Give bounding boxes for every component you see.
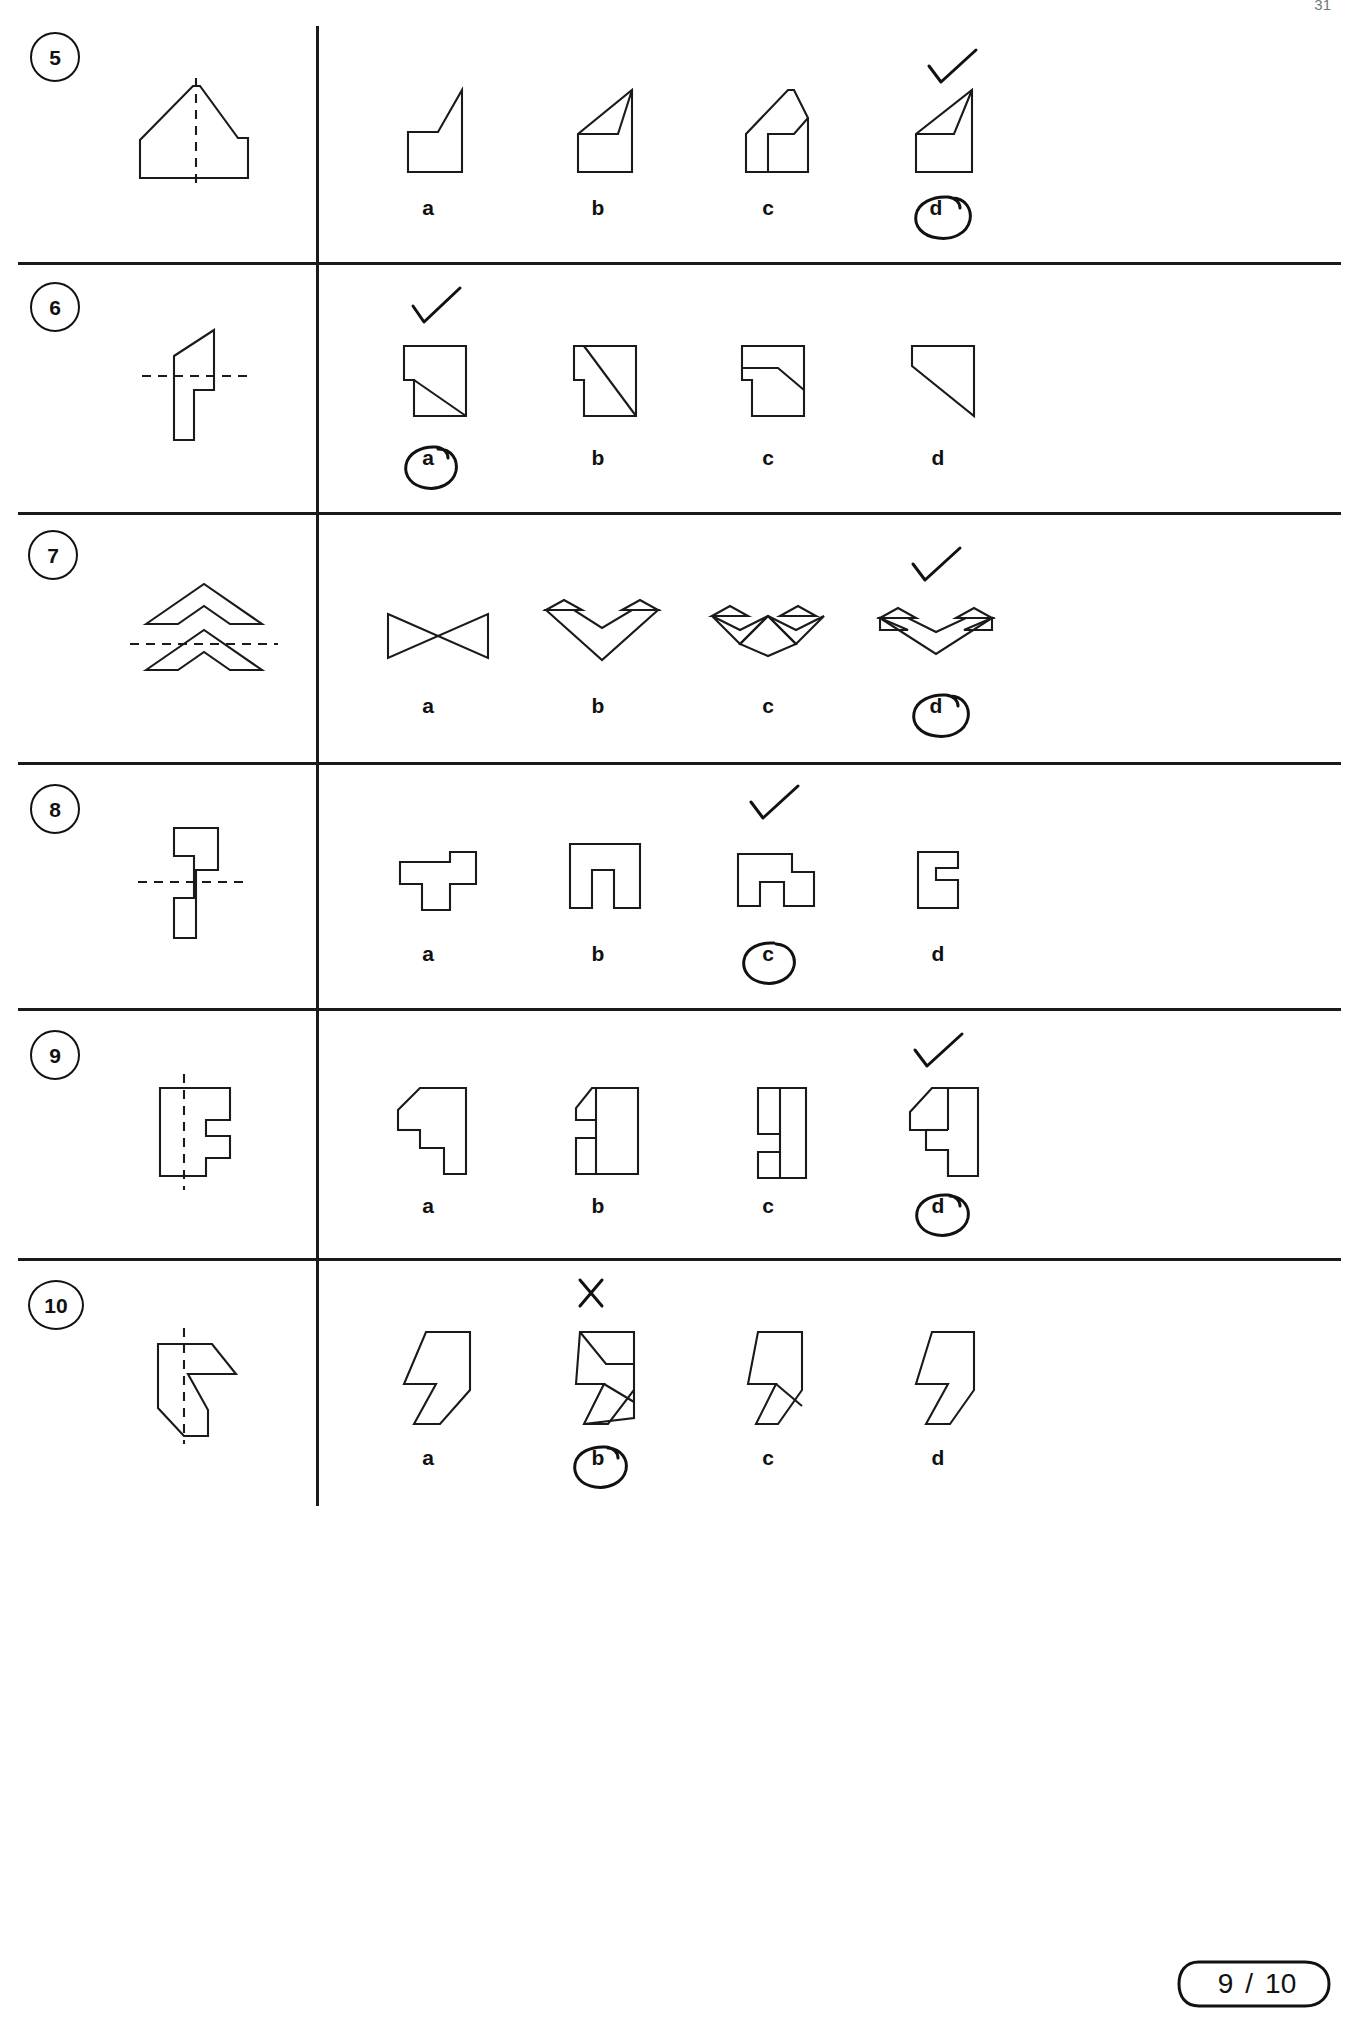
option-10-a[interactable] [392,1320,486,1432]
question-row-7: 7 a b [0,512,1359,762]
option-6-d[interactable] [904,338,990,430]
option-10-b[interactable] [562,1320,656,1432]
score-separator: / [1245,1968,1253,2000]
question-row-5: 5 a b [0,0,1359,262]
worksheet-page: 31 5 a [0,0,1359,2018]
question-number-6: 6 [30,282,80,332]
option-label-10-d[interactable]: d [908,1446,968,1470]
check-mark-6 [408,284,470,328]
option-7-c[interactable] [706,600,842,662]
score-total: 10 [1265,1968,1296,2000]
option-5-c[interactable] [738,84,824,180]
option-label-9-b[interactable]: b [568,1194,628,1218]
question-row-6: 6 a [0,262,1359,512]
prompt-figure-6 [136,316,276,446]
question-number-8: 8 [30,784,80,834]
option-6-a[interactable] [396,338,482,430]
option-label-7-d[interactable]: d [906,694,966,718]
score-box: 9 / 10 [1177,1958,1337,2010]
option-label-5-b[interactable]: b [568,196,628,220]
option-8-c[interactable] [730,844,830,924]
question-number-9: 9 [30,1030,80,1080]
question-row-10: 10 a b [0,1258,1359,1506]
option-label-5-d[interactable]: d [906,196,966,220]
check-mark-7 [908,544,970,588]
option-label-10-a[interactable]: a [398,1446,458,1470]
check-mark-8 [746,782,808,826]
option-label-9-a[interactable]: a [398,1194,458,1218]
option-label-6-c[interactable]: c [738,446,798,470]
option-7-a[interactable] [382,604,496,668]
option-8-b[interactable] [562,834,662,926]
question-number-10: 10 [28,1280,84,1330]
option-7-d[interactable] [874,600,1010,662]
option-label-8-d[interactable]: d [908,942,968,966]
question-row-9: 9 a b [0,1008,1359,1258]
option-label-7-b[interactable]: b [568,694,628,718]
question-number-7: 7 [28,530,78,580]
option-label-10-b[interactable]: b [568,1446,628,1470]
option-label-7-a[interactable]: a [398,694,458,718]
option-9-a[interactable] [390,1078,486,1186]
question-row-8: 8 a b c [0,762,1359,1008]
option-label-7-c[interactable]: c [738,694,798,718]
option-10-c[interactable] [732,1320,826,1432]
option-10-d[interactable] [902,1320,996,1432]
option-label-8-c[interactable]: c [738,942,798,966]
option-label-10-c[interactable]: c [738,1446,798,1470]
option-9-b[interactable] [562,1078,658,1186]
option-label-8-a[interactable]: a [398,942,458,966]
option-5-a[interactable] [400,84,480,180]
check-mark-9 [910,1030,972,1074]
prompt-figure-9 [140,1068,270,1198]
option-label-9-c[interactable]: c [738,1194,798,1218]
option-8-a[interactable] [392,840,492,926]
option-label-9-d[interactable]: d [908,1194,968,1218]
option-6-c[interactable] [734,338,820,430]
prompt-figure-8 [132,814,272,944]
option-5-b[interactable] [570,84,650,180]
prompt-figure-7 [126,572,286,692]
prompt-figure-10 [140,1318,270,1448]
cross-mark-10 [572,1274,612,1312]
prompt-figure-5 [130,78,280,188]
option-9-c[interactable] [732,1078,828,1186]
option-8-d[interactable] [910,842,990,924]
option-label-6-d[interactable]: d [908,446,968,470]
option-label-6-a[interactable]: a [398,446,458,470]
option-6-b[interactable] [566,338,652,430]
option-7-b[interactable] [540,594,666,666]
score-value: 9 [1218,1968,1234,2000]
option-label-6-b[interactable]: b [568,446,628,470]
question-number-5: 5 [30,32,80,82]
option-label-5-c[interactable]: c [738,196,798,220]
option-label-8-b[interactable]: b [568,942,628,966]
option-label-5-a[interactable]: a [398,196,458,220]
option-5-d[interactable] [908,84,990,180]
option-9-d[interactable] [902,1078,998,1186]
